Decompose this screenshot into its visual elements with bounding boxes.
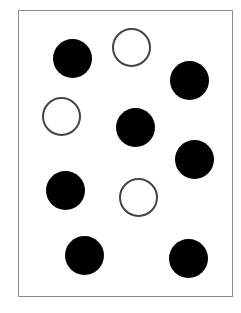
- open-circle: [112, 28, 151, 67]
- filled-circle: [175, 140, 214, 179]
- filled-circle: [116, 108, 155, 147]
- filled-circle: [170, 61, 209, 100]
- open-circle: [119, 178, 158, 217]
- filled-circle: [46, 171, 85, 210]
- filled-circle: [53, 39, 92, 78]
- diagram-canvas: [0, 0, 241, 313]
- open-circle: [42, 97, 81, 136]
- filled-circle: [169, 239, 208, 278]
- filled-circle: [65, 236, 104, 275]
